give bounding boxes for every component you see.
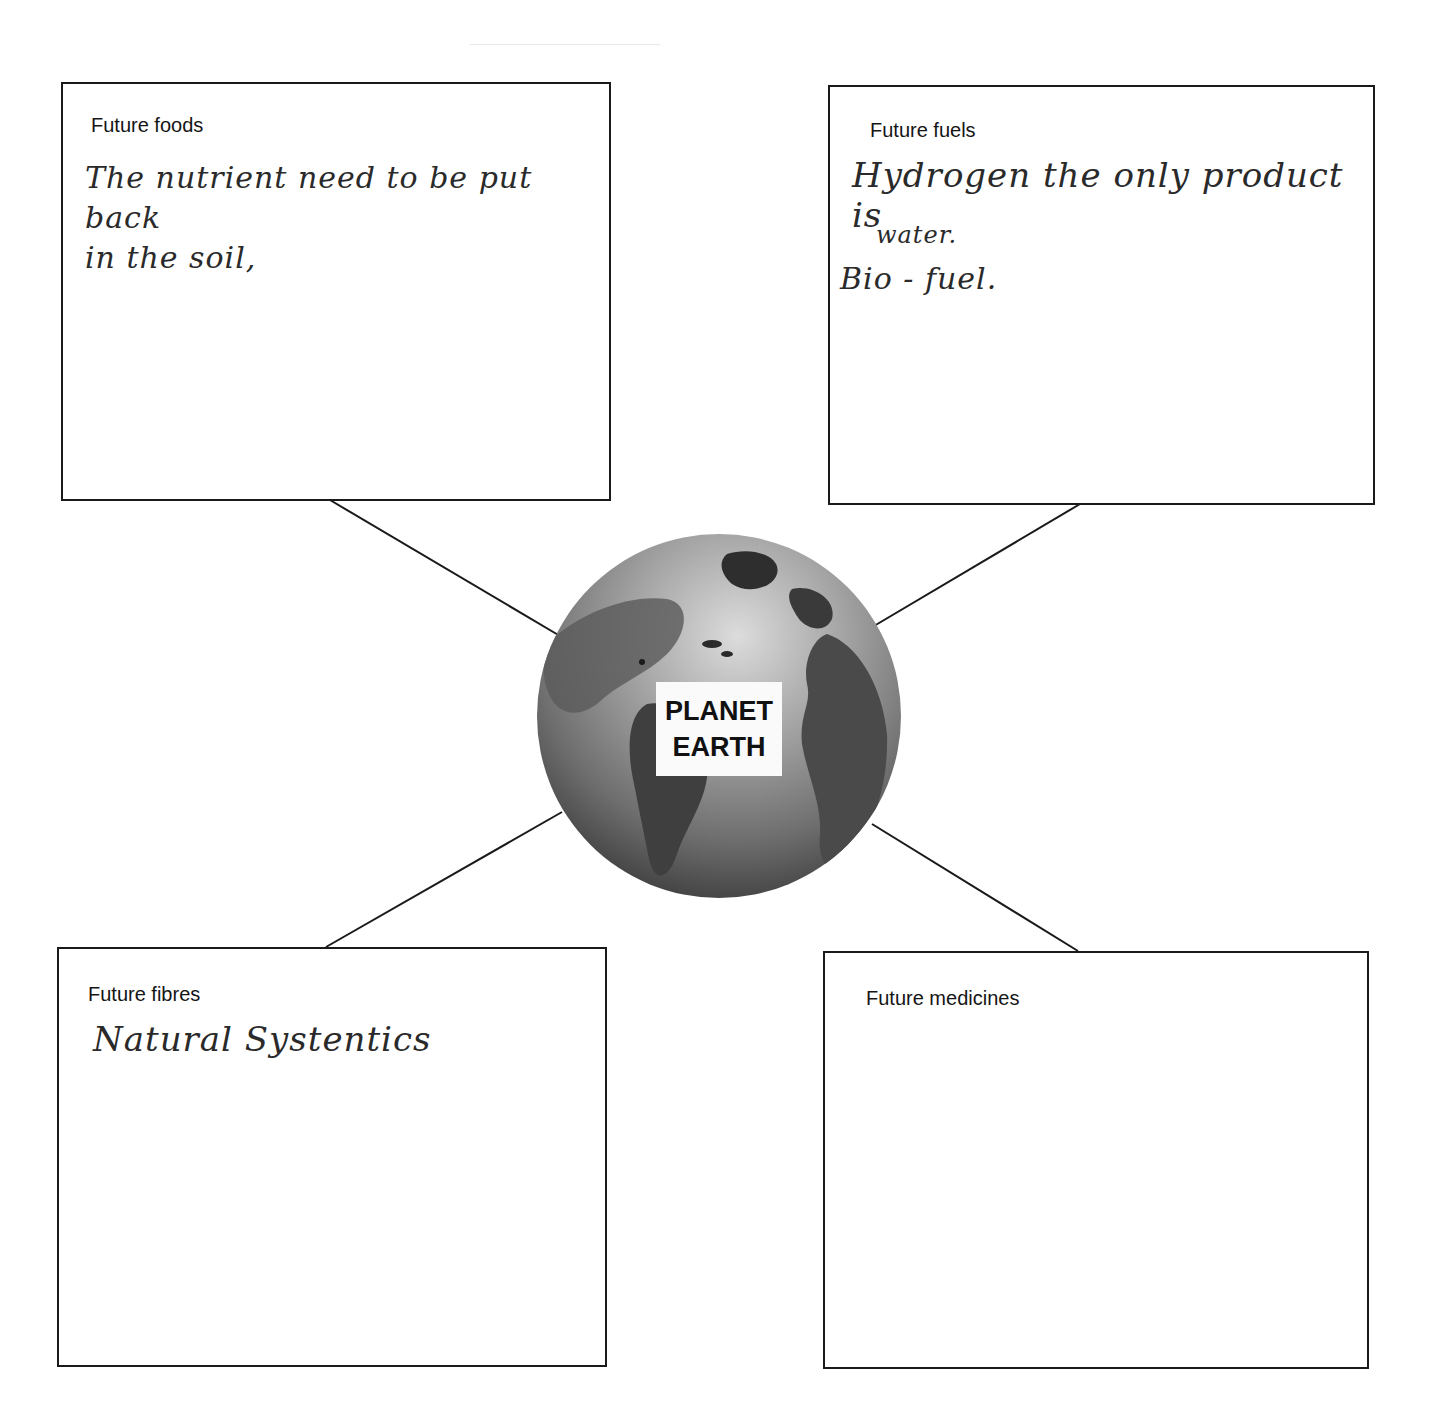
future-foods-label: Future foods bbox=[91, 114, 203, 137]
future-fibres-handwriting[interactable]: Natural Systentics bbox=[93, 1019, 573, 1059]
future-medicines-box: Future medicines bbox=[823, 951, 1369, 1369]
future-medicines-label: Future medicines bbox=[866, 987, 1019, 1010]
planet-earth-label-line2: EARTH bbox=[673, 729, 766, 765]
future-fuels-handwriting-line2[interactable]: water. bbox=[876, 215, 957, 255]
planet-earth-label: PLANET EARTH bbox=[656, 682, 782, 776]
future-fibres-label: Future fibres bbox=[88, 983, 200, 1006]
future-foods-handwriting[interactable]: The nutrient need to be put back in the … bbox=[85, 158, 585, 278]
future-fuels-label: Future fuels bbox=[870, 119, 976, 142]
future-fuels-handwriting-line3[interactable]: Bio - fuel. bbox=[840, 259, 997, 299]
future-foods-box: Future foods The nutrient need to be put… bbox=[61, 82, 611, 501]
future-fibres-box: Future fibres Natural Systentics bbox=[57, 947, 607, 1367]
planet-earth-label-line1: PLANET bbox=[665, 693, 773, 729]
future-fuels-box: Future fuels Hydrogen the only product i… bbox=[828, 85, 1375, 505]
